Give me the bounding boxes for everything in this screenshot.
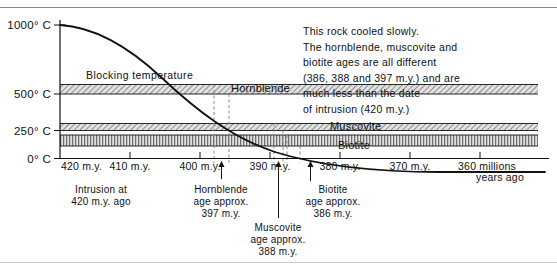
y-tick-label-1000: 1000° C xyxy=(7,19,51,31)
callout-hornblende-line-1: Hornblende xyxy=(194,184,248,195)
note-line-1: This rock cooled slowly. xyxy=(303,25,419,37)
callout-biotite-line-2: age approx. xyxy=(305,196,360,207)
callout-intrusion: Intrusion at 420 m.y. ago xyxy=(71,184,131,207)
x-tick-label-380: 380 m.y. xyxy=(319,160,360,172)
x-axis-unit-label: years ago xyxy=(476,171,524,183)
blocking-temperature-caption: Blocking temperature xyxy=(86,69,193,81)
note-line-6: of intrusion (420 m.y.) xyxy=(303,103,410,115)
x-tick-label-390: 390 m.y. xyxy=(249,160,290,172)
callout-muscovite: Muscovite age approx. 388 m.y. xyxy=(250,161,305,257)
x-tick-label-420: 420 m.y. xyxy=(61,160,102,172)
band-label-biotite: Biotite xyxy=(338,139,370,151)
x-tick-label-410: 410 m.y. xyxy=(109,160,150,172)
callout-hornblende-line-2: age approx. xyxy=(193,196,248,207)
band-label-hornblende: Hornblende xyxy=(231,82,290,94)
y-axis-tick-labels: 1000° C 500° C 250° C 0° C xyxy=(7,19,51,165)
note-line-3: biotite ages are all different xyxy=(303,56,436,68)
y-tick-label-500: 500° C xyxy=(14,88,51,100)
band-muscovite xyxy=(60,124,538,131)
x-tick-label-370: 370 m.y. xyxy=(389,160,430,172)
blocking-temperature-bands xyxy=(60,85,538,147)
explanatory-note: This rock cooled slowly. The hornblende,… xyxy=(303,25,460,115)
callout-muscovite-line-2: age approx. xyxy=(250,234,305,245)
callout-muscovite-line-3: 388 m.y. xyxy=(258,246,297,257)
y-tick-label-250: 250° C xyxy=(14,125,51,137)
callout-intrusion-line-2: 420 m.y. ago xyxy=(71,196,131,207)
callout-biotite-line-1: Biotite xyxy=(318,184,347,195)
callout-muscovite-line-1: Muscovite xyxy=(255,222,302,233)
band-label-muscovite: Muscovite xyxy=(330,120,381,132)
callout-hornblende-line-3: 397 m.y. xyxy=(201,208,240,219)
x-tick-label-400: 400 m.y. xyxy=(179,160,220,172)
figure-root: 1000° C 500° C 250° C 0° C 420 m.y. 410 … xyxy=(0,0,557,269)
callout-biotite-line-3: 386 m.y. xyxy=(313,208,352,219)
cooling-curve-chart: 1000° C 500° C 250° C 0° C 420 m.y. 410 … xyxy=(0,0,557,269)
band-hornblende xyxy=(60,85,538,95)
band-biotite xyxy=(60,135,538,146)
callout-intrusion-line-1: Intrusion at xyxy=(75,184,127,195)
y-tick-label-0: 0° C xyxy=(27,153,51,165)
note-line-2: The hornblende, muscovite and xyxy=(303,41,457,53)
note-line-4: (386, 388 and 397 m.y.) and are xyxy=(303,72,460,84)
note-line-5: much less than the date xyxy=(303,87,420,99)
